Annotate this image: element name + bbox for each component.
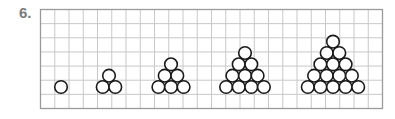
circle <box>152 81 165 94</box>
circle <box>158 69 171 82</box>
circle <box>232 58 245 71</box>
circle <box>96 81 109 94</box>
circle <box>220 81 233 94</box>
figure-4 <box>220 47 270 94</box>
circle <box>109 81 122 94</box>
circle <box>327 58 340 71</box>
figure-2 <box>96 69 121 93</box>
circle <box>177 81 190 94</box>
circle <box>171 69 184 82</box>
figure-1 <box>55 81 68 94</box>
circle <box>346 69 359 82</box>
figure-3 <box>152 58 190 93</box>
circle <box>320 69 333 82</box>
circle <box>308 69 321 82</box>
circle <box>339 81 352 94</box>
circle <box>239 47 252 60</box>
circle <box>314 81 327 94</box>
circle <box>327 35 340 48</box>
circle <box>320 47 333 60</box>
circle <box>333 47 346 60</box>
circle <box>251 69 264 82</box>
circle <box>245 58 258 71</box>
circle <box>103 69 116 82</box>
circle <box>55 81 68 94</box>
circle <box>245 81 258 94</box>
circle <box>314 58 327 71</box>
circle <box>333 69 346 82</box>
circle <box>302 81 315 94</box>
circle <box>226 69 239 82</box>
circle <box>165 58 178 71</box>
figures <box>55 35 365 93</box>
circle <box>352 81 365 94</box>
circle <box>165 81 178 94</box>
circle <box>232 81 245 94</box>
circle <box>258 81 271 94</box>
circle <box>239 69 252 82</box>
circle <box>339 58 352 71</box>
circle <box>327 81 340 94</box>
triangular-number-diagram <box>0 0 395 119</box>
